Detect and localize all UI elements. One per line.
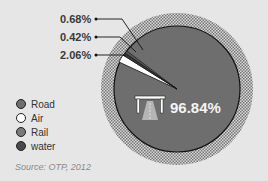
legend-item-rail: Rail bbox=[16, 126, 48, 138]
legend-label: Air bbox=[31, 113, 43, 124]
source-note: Source: OTP, 2012 bbox=[15, 162, 91, 172]
legend-item-water: water bbox=[16, 140, 55, 152]
label-rail-pct: 2.06% bbox=[60, 49, 91, 61]
legend-swatch-water bbox=[16, 141, 26, 151]
label-air-pct: 0.42% bbox=[60, 31, 91, 43]
legend-swatch-rail bbox=[16, 127, 26, 137]
label-road-pct: 96.84% bbox=[170, 99, 221, 116]
legend-item-road: Road bbox=[16, 98, 55, 110]
legend-label: water bbox=[31, 141, 55, 152]
pie-chart bbox=[0, 0, 268, 181]
legend-item-air: Air bbox=[16, 112, 43, 124]
label-water-pct: 0.68% bbox=[60, 13, 91, 25]
legend-swatch-road bbox=[16, 99, 26, 109]
legend-label: Rail bbox=[31, 127, 48, 138]
legend-swatch-air bbox=[16, 113, 26, 123]
legend-label: Road bbox=[31, 99, 55, 110]
